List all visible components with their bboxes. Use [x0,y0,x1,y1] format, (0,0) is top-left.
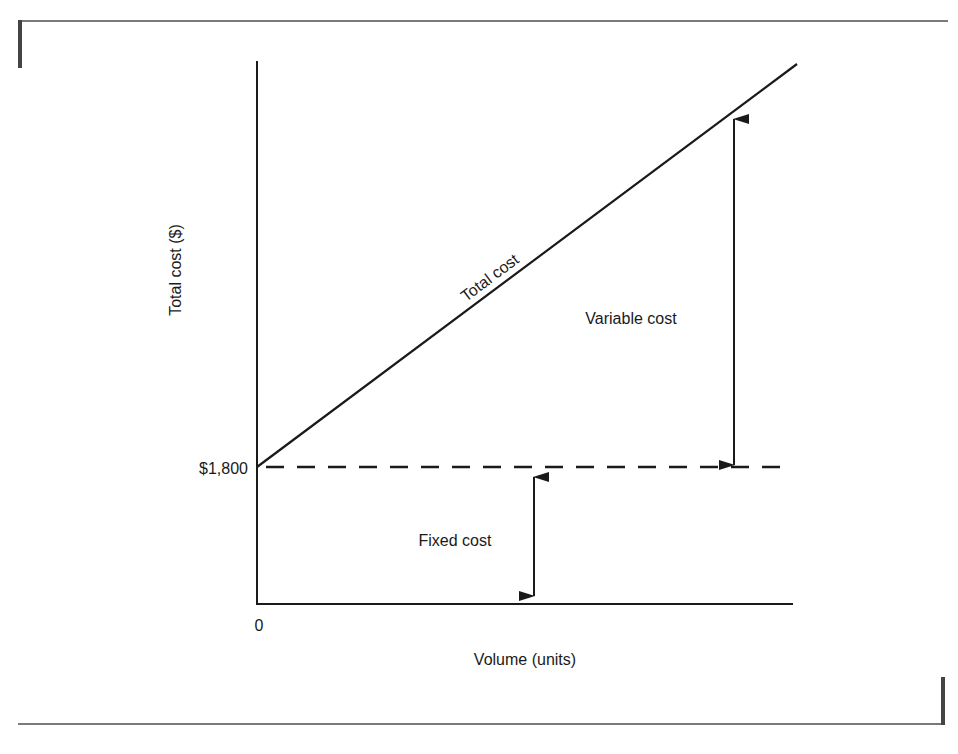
y-axis-label: Total cost ($) [167,224,184,316]
x-axis-label: Volume (units) [474,651,576,668]
fixed-cost-label: Fixed cost [419,532,492,549]
origin-label: 0 [255,617,264,634]
variable-cost-label: Variable cost [585,310,677,327]
page-frame [18,20,948,725]
total-cost-line [257,64,797,467]
cost-chart: Total cost ($) $1,800 0 Volume (units) T… [0,0,958,754]
fixed-level-tick-label: $1,800 [199,460,248,477]
